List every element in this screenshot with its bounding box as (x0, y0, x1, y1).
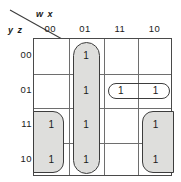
kmap-cell-r01-c01: 1 (69, 74, 104, 109)
row-header-2: 11 (2, 107, 32, 142)
column-header-row: 00 01 11 10 (33, 23, 172, 38)
kmap-cell-r10-c01: 1 (69, 143, 104, 178)
karnaugh-map-diagram: w x y z 00 01 11 10 00 01 11 10 1 1 1 (0, 0, 181, 182)
left-variable-label: y z (8, 25, 23, 35)
top-variable-label: w x (36, 9, 54, 19)
column-header-0: 00 (33, 23, 68, 34)
kmap-grid: 1 1 1 1 1 1 1 1 1 1 (33, 38, 172, 176)
column-header-2: 11 (103, 23, 138, 34)
row-header-1: 01 (2, 73, 32, 108)
row-header-0: 00 (2, 38, 32, 73)
kmap-cell-r01-c10: 1 (138, 74, 173, 109)
kmap-cell-r01-c11: 1 (104, 74, 139, 109)
kmap-cell-r11-c10: 1 (138, 108, 173, 143)
column-header-1: 01 (68, 23, 103, 34)
column-header-3: 10 (137, 23, 172, 34)
kmap-cell-r11-c01: 1 (69, 108, 104, 143)
kmap-cell-r10-c00: 1 (34, 143, 69, 178)
kmap-cell-r10-c10: 1 (138, 143, 173, 178)
kmap-cell-r11-c00: 1 (34, 108, 69, 143)
row-header-column: 00 01 11 10 (2, 38, 32, 176)
kmap-cell-r00-c01: 1 (69, 39, 104, 74)
row-header-3: 10 (2, 142, 32, 177)
